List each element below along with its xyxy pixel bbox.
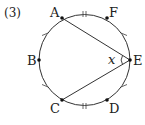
point-B [37,58,41,62]
point-A [60,16,64,20]
point-E [128,58,132,62]
label-B: B [27,53,37,68]
angle-label-x: x [108,52,116,67]
circle [39,15,130,106]
segment-CE [62,60,130,100]
angle-arc-x [121,55,122,64]
segment-AE [62,18,130,60]
label-F: F [109,5,118,20]
label-C: C [50,101,60,116]
label-A: A [49,5,60,20]
double-tick-marks [83,11,86,109]
point-C [60,98,64,102]
geometry-diagram: A B C D E F x [0,0,145,125]
label-E: E [133,53,143,68]
label-D: D [109,101,119,116]
